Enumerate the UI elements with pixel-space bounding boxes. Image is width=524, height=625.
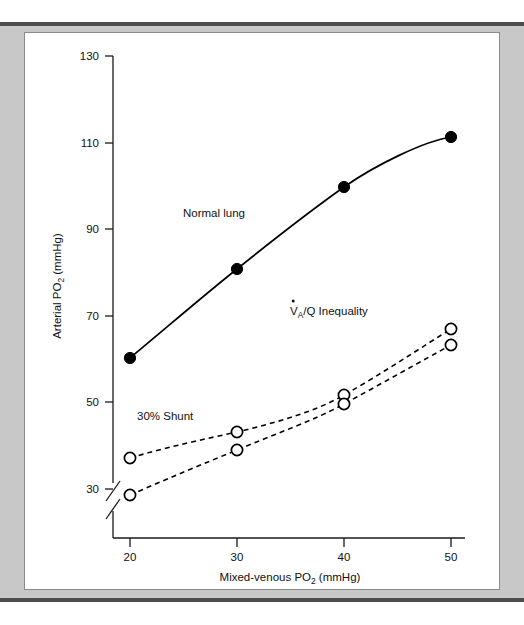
x-tick-label-40: 40 xyxy=(338,551,351,563)
x-tick-label-30: 30 xyxy=(231,551,244,563)
data-point xyxy=(231,263,242,274)
data-point xyxy=(124,352,135,363)
y-tick-labels: 130 110 90 70 50 30 xyxy=(80,50,99,495)
y-tick-label-110: 110 xyxy=(81,137,99,149)
series-normal-lung-line xyxy=(130,137,451,358)
y-tick-label-130: 130 xyxy=(80,50,99,62)
data-point xyxy=(124,452,135,463)
x-tick-label-50: 50 xyxy=(445,551,458,563)
y-tick-label-50: 50 xyxy=(86,396,99,408)
data-point xyxy=(445,131,456,142)
annotation-vaq-inequality: VA/Q Inequality xyxy=(290,300,368,321)
top-rule xyxy=(0,22,524,26)
x-tick-marks xyxy=(130,538,451,547)
annotation-30pct-shunt: 30% Shunt xyxy=(137,410,194,422)
annotation-vaq-rest: /Q Inequality xyxy=(303,305,368,317)
y-tick-marks xyxy=(105,56,113,489)
y-tick-label-70: 70 xyxy=(86,310,99,322)
figure-page: 130 110 90 70 50 30 20 30 40 50 xyxy=(0,0,524,625)
data-point xyxy=(445,339,456,350)
x-tick-label-20: 20 xyxy=(124,551,137,563)
data-point xyxy=(231,426,242,437)
page-margin-top xyxy=(0,0,524,22)
chart-svg: 130 110 90 70 50 30 20 30 40 50 xyxy=(25,33,499,589)
y-tick-label-30: 30 xyxy=(86,483,99,495)
y-axis-title-unit: (mmHg) xyxy=(51,233,63,278)
x-axis-title-unit: (mmHg) xyxy=(316,571,361,583)
annotation-normal-lung: Normal lung xyxy=(183,207,245,219)
svg-text:VA/Q Inequality: VA/Q Inequality xyxy=(290,305,368,320)
chart-panel: 130 110 90 70 50 30 20 30 40 50 xyxy=(24,32,500,590)
data-point xyxy=(231,444,242,455)
y-axis-title-main: Arterial PO xyxy=(51,283,63,339)
series-normal-lung xyxy=(124,131,456,363)
x-axis-title-main: Mixed-venous PO xyxy=(220,571,311,583)
series-30pct-shunt-line xyxy=(130,329,451,458)
y-tick-label-90: 90 xyxy=(86,223,99,235)
y-axis-title: Arterial PO2 (mmHg) xyxy=(51,233,66,339)
v-dot-icon xyxy=(292,300,295,303)
data-point xyxy=(124,489,135,500)
x-tick-labels: 20 30 40 50 xyxy=(124,551,458,563)
data-point xyxy=(338,181,349,192)
x-axis-title: Mixed-venous PO2 (mmHg) xyxy=(220,571,361,586)
page-margin-bottom xyxy=(0,602,524,625)
data-point xyxy=(338,398,349,409)
data-point xyxy=(445,323,456,334)
series-30pct-shunt xyxy=(124,323,456,463)
